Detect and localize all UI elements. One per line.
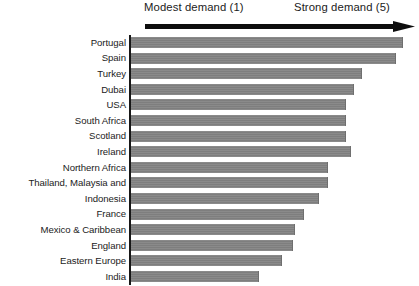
bar-category-label: Turkey: [0, 69, 126, 79]
bar-track: [131, 162, 419, 173]
scale-annotation: Modest demand (1) Strong demand (5): [131, 0, 419, 34]
bar-category-label: Ireland: [0, 147, 126, 157]
bar-track: [131, 209, 419, 220]
bar: [131, 99, 346, 110]
bar-category-label: Northern Africa: [0, 163, 126, 173]
bar-track: [131, 37, 419, 48]
bar-category-label: Thailand, Malaysia and: [0, 178, 126, 188]
bar-category-label: England: [0, 241, 126, 251]
bar-category-label: Dubai: [0, 85, 126, 95]
bar-track: [131, 84, 419, 95]
bar: [131, 240, 293, 251]
bar: [131, 115, 346, 126]
bar-row: Northern Africa: [0, 160, 419, 176]
bar: [131, 224, 295, 235]
bar-track: [131, 193, 419, 204]
bar-category-label: Spain: [0, 53, 126, 63]
bar: [131, 255, 282, 266]
bar-rows: PortugalSpainTurkeyDubaiUSASouth AfricaS…: [0, 35, 419, 285]
bar-row: South Africa: [0, 113, 419, 129]
bar-row: Indonesia: [0, 191, 419, 207]
bar-category-label: Mexico & Caribbean: [0, 225, 126, 235]
bar-track: [131, 255, 419, 266]
bar-track: [131, 115, 419, 126]
bar: [131, 209, 304, 220]
bar-track: [131, 271, 419, 282]
bar: [131, 146, 351, 157]
bar-row: India: [0, 269, 419, 285]
bar-category-label: Portugal: [0, 38, 126, 48]
bar-track: [131, 224, 419, 235]
scale-label-modest: Modest demand (1): [144, 1, 244, 13]
bar-track: [131, 99, 419, 110]
bar-row: Turkey: [0, 66, 419, 82]
bar-row: Dubai: [0, 82, 419, 98]
bar-row: Eastern Europe: [0, 253, 419, 269]
bar-row: France: [0, 207, 419, 223]
bar-category-label: Indonesia: [0, 194, 126, 204]
bar: [131, 84, 354, 95]
bar-category-label: Scotland: [0, 131, 126, 141]
bar-row: Portugal: [0, 35, 419, 51]
bar-category-label: USA: [0, 100, 126, 110]
bar-category-label: France: [0, 209, 126, 219]
bar-category-label: India: [0, 272, 126, 282]
bar-row: Spain: [0, 51, 419, 67]
bar-row: England: [0, 238, 419, 254]
bar: [131, 162, 328, 173]
bar-track: [131, 131, 419, 142]
bar: [131, 68, 362, 79]
scale-label-strong: Strong demand (5): [294, 1, 390, 13]
bar-track: [131, 177, 419, 188]
right-arrow-icon: [145, 21, 415, 32]
bar: [131, 271, 259, 282]
bar-row: Mexico & Caribbean: [0, 222, 419, 238]
bar-row: Ireland: [0, 144, 419, 160]
bar-track: [131, 53, 419, 64]
bar-row: Scotland: [0, 129, 419, 145]
bar-category-label: South Africa: [0, 116, 126, 126]
plot-area: PortugalSpainTurkeyDubaiUSASouth AfricaS…: [0, 34, 419, 286]
demand-bar-chart: Modest demand (1) Strong demand (5) Port…: [0, 0, 419, 286]
bar-track: [131, 68, 419, 79]
bar: [131, 37, 403, 48]
bar-category-label: Eastern Europe: [0, 256, 126, 266]
bar-track: [131, 146, 419, 157]
bar-track: [131, 240, 419, 251]
bar: [131, 193, 319, 204]
bar: [131, 53, 396, 64]
bar: [131, 131, 346, 142]
bar: [131, 177, 328, 188]
bar-row: Thailand, Malaysia and: [0, 175, 419, 191]
bar-row: USA: [0, 97, 419, 113]
